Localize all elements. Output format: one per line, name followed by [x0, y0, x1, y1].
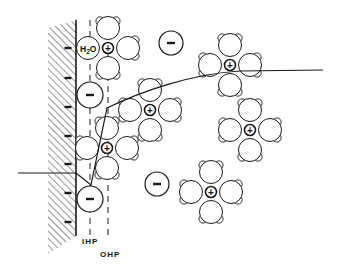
water-molecule-icon: [116, 137, 139, 160]
water-molecule-icon: [159, 99, 182, 122]
electrode-negative-charge-icon: [65, 163, 72, 165]
plus-sign-icon: +: [227, 60, 233, 71]
plus-sign-icon: +: [208, 187, 214, 198]
water-molecule-icon: [219, 119, 242, 142]
electrode: [48, 20, 76, 254]
water-molecule-icon: [220, 181, 243, 204]
plus-sign-icon: +: [147, 105, 153, 116]
ohp-label: OHP: [100, 250, 120, 259]
solvated-cation: +: [180, 161, 243, 224]
minus-sign-icon: [86, 198, 94, 200]
electrode-negative-charge-icon: [65, 135, 72, 137]
electrode-negative-charge-icon: [65, 77, 72, 79]
solvated-cation: +: [76, 117, 139, 180]
anion: [159, 31, 183, 55]
minus-sign-icon: [153, 183, 161, 185]
minus-sign-icon: [167, 42, 175, 44]
solvated-cation: +: [119, 79, 182, 142]
solvated-cation: +: [219, 99, 282, 162]
water-molecule-icon: [239, 139, 262, 162]
minus-sign-icon: [86, 94, 94, 96]
electrode-negative-charge-icon: [65, 221, 72, 223]
water-molecule-icon: [239, 54, 262, 77]
water-molecule-icon: [259, 119, 282, 142]
water-molecule-icon: [200, 201, 223, 224]
anion: [77, 82, 103, 108]
plus-sign-icon: +: [247, 125, 253, 136]
water-molecule-icon: [119, 99, 142, 122]
water-molecule-icon: [96, 117, 119, 140]
electrode-negative-charge-icon: [65, 106, 72, 108]
water-molecule-icon: [76, 137, 99, 160]
solvated-cation: +: [199, 34, 262, 97]
water-molecule-icon: [139, 119, 162, 142]
water-molecule-icon: [239, 99, 262, 122]
water-molecule-icon: [180, 181, 203, 204]
anion: [77, 186, 103, 212]
electrode-hatching: [48, 20, 76, 254]
double-layer-diagram: ++++++ H2OIHPOHP Electrical double layer…: [0, 0, 337, 268]
diagram-canvas: ++++++ H2OIHPOHP: [0, 0, 337, 268]
plus-sign-icon: +: [105, 43, 111, 54]
electrode-negative-charge-icon: [65, 47, 72, 49]
water-molecule-icon: [219, 34, 242, 57]
anion: [145, 172, 169, 196]
water-molecule-icon: [117, 37, 140, 60]
plus-sign-icon: +: [104, 143, 110, 154]
water-molecule-icon: [97, 17, 120, 40]
water-molecule-icon: [97, 57, 120, 80]
water-molecule-icon: [96, 157, 119, 180]
ihp-label: IHP: [82, 237, 98, 246]
water-molecule-icon: [200, 161, 223, 184]
water-molecule-icon: [219, 74, 242, 97]
electrode-negative-charge-icon: [65, 192, 72, 194]
